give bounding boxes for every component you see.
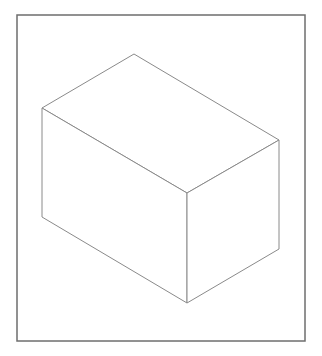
figure-canvas bbox=[0, 0, 322, 356]
isometric-box bbox=[42, 54, 279, 303]
